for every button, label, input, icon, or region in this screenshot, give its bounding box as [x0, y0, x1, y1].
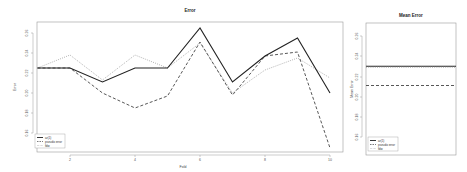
x-tick-label: 6 [199, 158, 201, 162]
series-line-solid [38, 28, 331, 93]
x-tick-label: 2 [69, 158, 71, 162]
series-line-dotted [38, 43, 331, 93]
x-tick-label: 4 [134, 158, 136, 162]
side-series-group [366, 66, 456, 85]
y-tick-label: 0.18 [355, 114, 359, 121]
main-chart-title: Error [184, 8, 195, 13]
y-tick-label: 0.24 [25, 50, 29, 57]
main-chart: Error 0.26 0.24 0.22 0.20 0.18 0.16 Erro… [13, 8, 343, 169]
y-tick-label: 0.18 [25, 110, 29, 117]
y-tick-label: 0.20 [25, 90, 29, 97]
x-tick-label: 10 [328, 158, 332, 162]
mean-error-chart: Mean Error 0.26 0.24 0.22 0.20 0.18 0.16… [350, 13, 456, 155]
y-tick-label: 0.24 [355, 53, 359, 60]
side-y-axis: 0.26 0.24 0.22 0.20 0.18 0.16 Mean Error [350, 33, 362, 141]
series-line-dashed [38, 42, 331, 148]
y-tick-label: 0.26 [355, 33, 359, 40]
main-y-axis-label: Error [13, 82, 17, 91]
y-tick-label: 0.26 [25, 30, 29, 37]
side-y-axis-label: Mean Error [350, 79, 354, 97]
x-tick-label: 8 [264, 158, 266, 162]
main-legend: ar(1) pseudo error fdw [35, 134, 65, 148]
chart-canvas: Error 0.26 0.24 0.22 0.20 0.18 0.16 Erro… [0, 0, 467, 172]
y-tick-label: 0.20 [355, 94, 359, 101]
main-y-axis: 0.26 0.24 0.22 0.20 0.18 0.16 Error [13, 30, 33, 137]
y-tick-label: 0.16 [25, 130, 29, 137]
main-plot-frame [37, 22, 343, 152]
main-series-group [38, 28, 331, 148]
y-tick-label: 0.22 [25, 70, 29, 77]
y-tick-label: 0.22 [355, 74, 359, 81]
main-x-axis: 2 4 6 8 10 Fold [69, 155, 332, 169]
side-plot-frame [366, 23, 456, 155]
side-legend: ar(1) pseudo error fdw [368, 137, 398, 151]
side-chart-title: Mean Error [399, 13, 423, 18]
main-x-axis-label: Fold [180, 165, 187, 169]
y-tick-label: 0.16 [355, 134, 359, 141]
